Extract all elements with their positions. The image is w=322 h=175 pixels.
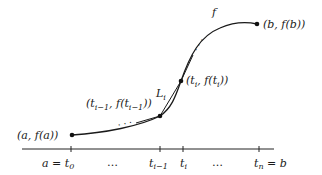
tick-label-t-i-minus-1: ti−1 — [149, 157, 168, 171]
label-point-t-i: (ti, f(ti)) — [186, 74, 228, 89]
dots-lower: · · · — [117, 117, 133, 130]
curve-label-f: f — [211, 6, 218, 19]
label-point-b: (b, f(b)) — [263, 18, 305, 31]
label-point-a: (a, f(a)) — [17, 129, 58, 142]
arc-length-diagram: · · · · · · f Li (a, f(a)) (ti−1, f(ti−1… — [0, 0, 322, 175]
point-a — [70, 133, 75, 138]
axis-ellipsis-1: … — [107, 156, 118, 169]
point-t-i — [179, 79, 184, 84]
label-point-t-i-minus-1: (ti−1, f(ti−1)) — [86, 97, 152, 112]
curve-f — [72, 23, 257, 135]
tick-label-t0: a = t0 — [42, 157, 74, 171]
tick-label-tn: tn = b — [254, 157, 287, 171]
chord-prev — [136, 116, 160, 123]
chord-label: Li — [155, 87, 166, 102]
point-t-i-minus-1 — [158, 114, 163, 119]
axis-ellipsis-2: … — [212, 156, 223, 169]
tick-label-t-i: ti — [180, 157, 187, 171]
point-b — [255, 22, 260, 27]
